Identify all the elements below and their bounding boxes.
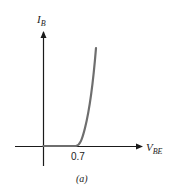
y-axis-label: IB	[37, 13, 46, 28]
x-axis-subscript: BE	[153, 147, 163, 156]
x-axis-symbol: V	[146, 141, 153, 153]
diagram-canvas	[0, 0, 170, 193]
x-axis-label: VBE	[146, 141, 163, 156]
ib-vbe-curve	[44, 48, 97, 146]
y-axis-subscript: B	[41, 19, 46, 28]
figure-caption: (a)	[76, 173, 88, 184]
knee-voltage-label: 0.7	[71, 151, 85, 162]
